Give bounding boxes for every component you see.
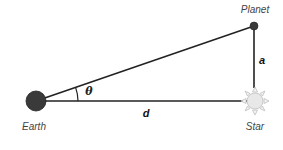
distance-label: d <box>143 107 150 119</box>
earth-planet-line <box>36 26 254 101</box>
angle-label: θ <box>85 85 92 98</box>
star-label: Star <box>246 121 264 132</box>
star-icon <box>241 87 269 115</box>
separation-label: a <box>259 54 265 66</box>
earth-icon <box>26 91 46 111</box>
planet-label: Planet <box>241 4 269 15</box>
angle-arc <box>76 87 78 101</box>
planet-icon <box>250 22 258 30</box>
earth-label: Earth <box>22 121 46 132</box>
